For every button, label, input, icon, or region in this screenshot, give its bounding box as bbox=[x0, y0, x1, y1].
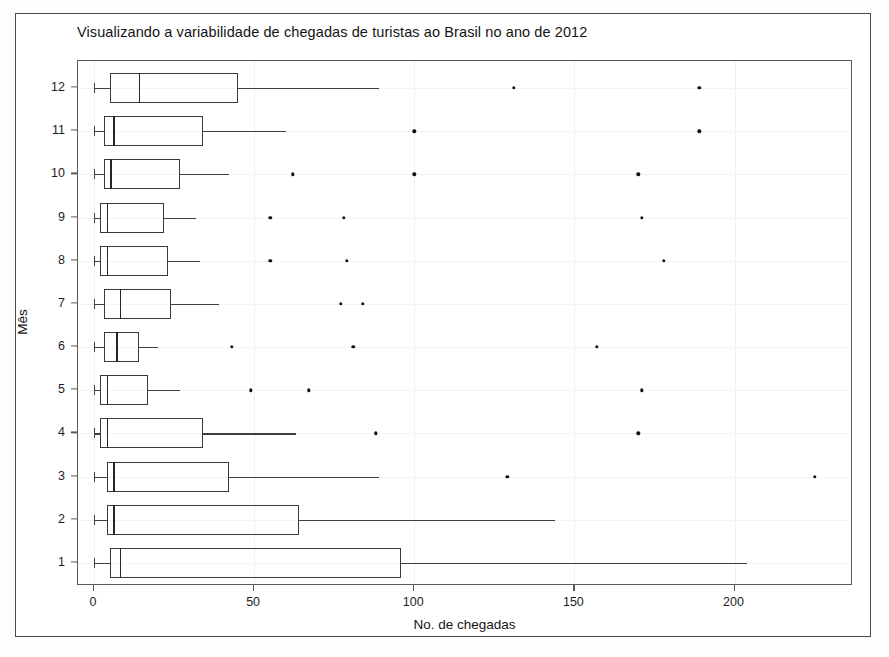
boxplot-outlier-point bbox=[268, 259, 271, 262]
x-axis-tick-mark bbox=[253, 585, 254, 591]
boxplot-outlier-point bbox=[512, 86, 515, 89]
boxplot-box bbox=[100, 418, 202, 448]
boxplot-outlier-point bbox=[361, 302, 364, 305]
boxplot-outlier-point bbox=[374, 432, 377, 435]
y-axis-tick-mark bbox=[71, 86, 77, 87]
plot-area bbox=[78, 61, 851, 584]
boxplot-outlier-point bbox=[339, 302, 342, 305]
boxplot-median bbox=[113, 505, 115, 535]
y-axis-tick-label: 2 bbox=[58, 512, 65, 526]
boxplot-outlier-point bbox=[413, 173, 416, 176]
boxplot-whisker-low bbox=[94, 304, 104, 305]
boxplot-whisker-high bbox=[229, 477, 380, 478]
boxplot-whisker-cap-low bbox=[94, 385, 95, 395]
boxplot-box bbox=[100, 246, 167, 276]
x-axis-tick-label: 50 bbox=[246, 595, 260, 609]
y-axis-tick-mark bbox=[71, 561, 77, 562]
boxplot-outlier-point bbox=[505, 475, 508, 478]
boxplot-whisker-cap-low bbox=[94, 256, 95, 266]
boxplot-whisker-high bbox=[168, 261, 200, 262]
boxplot-outlier-point bbox=[662, 259, 665, 262]
boxplot-whisker-high bbox=[203, 131, 286, 132]
boxplot-whisker-high bbox=[171, 304, 219, 305]
boxplot-box bbox=[100, 203, 164, 233]
plot-panel bbox=[77, 60, 852, 585]
y-axis-tick-label: 9 bbox=[58, 210, 65, 224]
x-axis-tick-label: 200 bbox=[723, 595, 744, 609]
x-axis-tick-label: 150 bbox=[563, 595, 584, 609]
gridline-vertical bbox=[94, 61, 95, 584]
x-axis-tick-mark bbox=[413, 585, 414, 591]
y-axis-tick-mark bbox=[71, 475, 77, 476]
y-axis-tick-label: 4 bbox=[58, 425, 65, 439]
boxplot-whisker-cap-low bbox=[94, 126, 95, 136]
boxplot-box bbox=[110, 548, 401, 578]
boxplot-whisker-cap-low bbox=[94, 558, 95, 568]
boxplot-whisker-high bbox=[180, 174, 228, 175]
boxplot-whisker-cap-low bbox=[94, 169, 95, 179]
boxplot-whisker-high bbox=[148, 390, 180, 391]
x-axis-tick-mark bbox=[93, 585, 94, 591]
y-axis-tick-label: 3 bbox=[58, 469, 65, 483]
y-axis-tick-mark bbox=[71, 518, 77, 519]
boxplot-median bbox=[107, 375, 109, 405]
boxplot-median bbox=[139, 73, 141, 103]
boxplot-outlier-point bbox=[268, 216, 271, 219]
y-axis-tick-mark bbox=[71, 173, 77, 174]
boxplot-whisker-cap-low bbox=[94, 428, 95, 438]
boxplot-median bbox=[107, 246, 109, 276]
y-axis-tick-label: 7 bbox=[58, 296, 65, 310]
boxplot-whisker-low bbox=[94, 174, 104, 175]
y-axis-tick-label: 12 bbox=[51, 80, 65, 94]
boxplot-whisker-high bbox=[299, 520, 555, 521]
gridline-vertical bbox=[574, 61, 575, 584]
boxplot-outlier-point bbox=[345, 259, 348, 262]
x-axis-tick-mark bbox=[734, 585, 735, 591]
boxplot-outlier-point bbox=[698, 86, 701, 89]
y-axis-tick-label: 6 bbox=[58, 339, 65, 353]
boxplot-box bbox=[110, 73, 238, 103]
boxplot-whisker-low bbox=[94, 131, 104, 132]
y-axis-tick-label: 8 bbox=[58, 253, 65, 267]
y-axis-tick-label: 10 bbox=[51, 166, 65, 180]
y-axis-tick-mark bbox=[71, 389, 77, 390]
boxplot-outlier-point bbox=[291, 173, 294, 176]
boxplot-whisker-high bbox=[401, 563, 747, 564]
boxplot-whisker-high bbox=[203, 433, 296, 434]
x-axis-title: No. de chegadas bbox=[77, 617, 852, 632]
y-axis-tick-label: 11 bbox=[52, 123, 65, 137]
boxplot-median bbox=[107, 418, 109, 448]
boxplot-whisker-cap-low bbox=[94, 342, 95, 352]
boxplot-whisker-cap-low bbox=[94, 472, 95, 482]
y-axis-title: Mês bbox=[15, 309, 30, 335]
boxplot-whisker-cap-low bbox=[94, 515, 95, 525]
boxplot-box bbox=[104, 116, 203, 146]
gridline-horizontal bbox=[78, 390, 851, 391]
boxplot-whisker-low bbox=[94, 477, 107, 478]
y-axis-tick-label: 5 bbox=[58, 382, 65, 396]
boxplot-outlier-point bbox=[352, 345, 355, 348]
boxplot-whisker-cap-low bbox=[94, 83, 95, 93]
boxplot-whisker-low bbox=[94, 520, 107, 521]
boxplot-median bbox=[120, 548, 122, 578]
boxplot-box bbox=[104, 289, 171, 319]
boxplot-outlier-point bbox=[230, 345, 233, 348]
boxplot-box bbox=[107, 462, 229, 492]
y-axis-tick-mark bbox=[71, 259, 77, 260]
x-axis-tick-label: 0 bbox=[90, 595, 97, 609]
boxplot-median bbox=[120, 289, 122, 319]
boxplot-outlier-point bbox=[342, 216, 345, 219]
boxplot-whisker-high bbox=[139, 347, 158, 348]
boxplot-median bbox=[110, 159, 112, 189]
y-axis-tick-label: 1 bbox=[58, 555, 65, 569]
boxplot-outlier-point bbox=[249, 389, 252, 392]
boxplot-outlier-point bbox=[813, 475, 816, 478]
boxplot-whisker-high bbox=[238, 88, 379, 89]
y-axis-tick-mark bbox=[71, 345, 77, 346]
y-axis-tick-mark bbox=[71, 130, 77, 131]
boxplot-whisker-low bbox=[94, 347, 104, 348]
boxplot-whisker-low bbox=[94, 563, 110, 564]
boxplot-median bbox=[113, 116, 115, 146]
boxplot-whisker-low bbox=[94, 88, 110, 89]
boxplot-outlier-point bbox=[637, 432, 640, 435]
